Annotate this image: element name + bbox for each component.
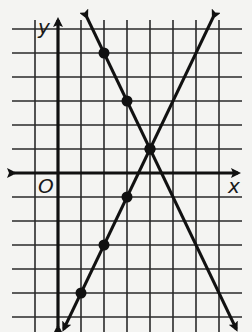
data-point bbox=[145, 144, 156, 155]
data-point bbox=[122, 192, 133, 203]
x-axis-label: x bbox=[228, 176, 240, 196]
data-point bbox=[122, 96, 133, 107]
data-point bbox=[99, 240, 110, 251]
data-point bbox=[99, 48, 110, 59]
coordinate-graph bbox=[0, 0, 252, 332]
data-point bbox=[76, 288, 87, 299]
y-axis-label: y bbox=[38, 17, 50, 37]
origin-label: O bbox=[38, 176, 54, 196]
